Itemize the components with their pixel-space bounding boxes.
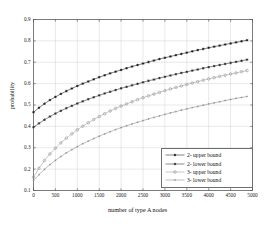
legend-marker-dot-icon bbox=[164, 176, 186, 184]
chart-legend: 2- upper bound 2- lower bound 3- upper b… bbox=[161, 148, 253, 188]
y-axis-label: probability bbox=[8, 61, 15, 131]
x-tick-label: 3000 bbox=[155, 193, 175, 198]
x-tick-label: 1500 bbox=[89, 193, 109, 198]
legend-marker-star-icon bbox=[164, 160, 186, 168]
legend-marker-circle-icon bbox=[164, 168, 186, 176]
y-tick-label: 0.6 bbox=[14, 81, 31, 86]
legend-item-label: 3- lower bound bbox=[186, 177, 221, 183]
y-tick-label: 0.8 bbox=[14, 38, 31, 43]
y-tick-label: 0.7 bbox=[14, 60, 31, 65]
legend-item: 3- upper bound bbox=[164, 168, 250, 176]
legend-item: 3- lower bound bbox=[164, 176, 250, 184]
legend-marker-star-icon bbox=[164, 151, 186, 159]
x-tick-label: 0 bbox=[24, 193, 44, 198]
legend-item-label: 2- upper bound bbox=[186, 152, 221, 158]
x-tick-label: 2000 bbox=[111, 193, 131, 198]
x-tick-label: 3500 bbox=[177, 193, 197, 198]
legend-item-label: 2- lower bound bbox=[186, 161, 221, 167]
x-tick-label: 4500 bbox=[221, 193, 241, 198]
y-tick-label: 0.4 bbox=[14, 124, 31, 129]
y-tick-label: 0.5 bbox=[14, 102, 31, 107]
x-tick-label: 1000 bbox=[67, 193, 87, 198]
x-tick-label: 5000 bbox=[243, 193, 263, 198]
x-axis-label: number of type A nodes bbox=[0, 206, 275, 213]
legend-item: 2- upper bound bbox=[164, 151, 250, 159]
y-tick-label: 0.9 bbox=[14, 17, 31, 22]
x-tick-label: 2500 bbox=[133, 193, 153, 198]
y-tick-label: 0.3 bbox=[14, 145, 31, 150]
legend-item: 2- lower bound bbox=[164, 159, 250, 167]
y-tick-label: 0.2 bbox=[14, 167, 31, 172]
x-tick-label: 500 bbox=[45, 193, 65, 198]
x-tick-label: 4000 bbox=[199, 193, 219, 198]
legend-item-label: 3- upper bound bbox=[186, 169, 221, 175]
chart-figure: 0.10.20.30.40.50.60.70.80.9 050010001500… bbox=[0, 0, 275, 230]
